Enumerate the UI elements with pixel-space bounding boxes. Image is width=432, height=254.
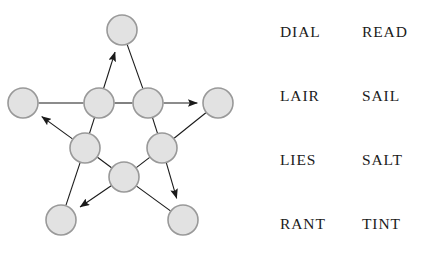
word-item: LIES <box>280 148 316 172</box>
word-row: LIESSALT <box>262 148 432 172</box>
word-item: TINT <box>362 212 401 236</box>
graph-node-right[interactable] <box>203 88 233 118</box>
graph-edge <box>137 186 171 211</box>
graph-node-bottom-left[interactable] <box>46 205 76 235</box>
word-row: RANTTINT <box>262 212 432 236</box>
graph-edge <box>66 163 80 206</box>
graph-edge <box>90 118 95 133</box>
word-list: DIALREADLAIRSAILLIESSALTRANTTINT <box>262 0 432 254</box>
star-graph-diagram <box>0 0 260 254</box>
word-item: SALT <box>362 148 403 172</box>
word-item: SAIL <box>362 84 400 108</box>
word-item: RANT <box>280 212 326 236</box>
word-row: LAIRSAIL <box>262 84 432 108</box>
graph-node-inner-lower-right[interactable] <box>147 133 177 163</box>
graph-node-inner-bottom[interactable] <box>109 162 139 192</box>
graph-node-inner-lower-left[interactable] <box>70 133 100 163</box>
graph-edge <box>136 157 149 167</box>
word-row: DIALREAD <box>262 20 432 44</box>
word-item: LAIR <box>280 84 320 108</box>
graph-edge <box>153 118 158 133</box>
graph-edge <box>174 113 206 139</box>
graph-edge <box>127 45 143 89</box>
word-item: READ <box>362 20 408 44</box>
figure-root: DIALREADLAIRSAILLIESSALTRANTTINT <box>0 0 432 254</box>
graph-node-inner-upper-left[interactable] <box>84 88 114 118</box>
graph-edge-directed <box>80 186 111 207</box>
graph-node-left[interactable] <box>8 88 38 118</box>
graph-edge-directed <box>42 117 73 139</box>
graph-edge <box>97 157 111 168</box>
graph-node-inner-upper-right[interactable] <box>133 88 163 118</box>
graph-edge-directed <box>104 52 115 88</box>
node-layer <box>8 15 233 235</box>
graph-node-top[interactable] <box>107 15 137 45</box>
graph-node-bottom-right[interactable] <box>168 205 198 235</box>
graph-edge-directed <box>166 163 176 198</box>
word-item: DIAL <box>280 20 321 44</box>
